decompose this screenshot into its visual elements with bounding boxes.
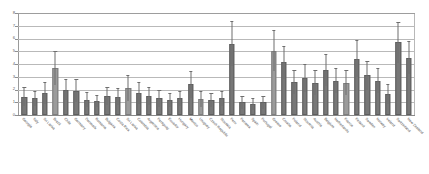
bar-slot bbox=[61, 13, 71, 115]
error-bar-cap bbox=[116, 88, 119, 89]
x-label-slot: Sri Lanka bbox=[123, 116, 133, 174]
y-tick-mark bbox=[15, 26, 18, 27]
bar-slot bbox=[144, 13, 154, 115]
error-bar-cap bbox=[397, 22, 400, 23]
error-bar bbox=[96, 95, 97, 108]
bar-slot bbox=[123, 13, 133, 115]
x-label-slot: Italy bbox=[29, 116, 39, 174]
error-bar-cap bbox=[366, 61, 369, 62]
error-bar-cap bbox=[407, 41, 410, 42]
error-bar bbox=[55, 51, 56, 85]
error-bar-cap bbox=[158, 90, 161, 91]
error-bar-cap bbox=[189, 71, 192, 72]
error-bar-cap bbox=[106, 87, 109, 88]
x-label-slot: Finland bbox=[352, 116, 362, 174]
bar-slot bbox=[279, 13, 289, 115]
error-bar-cap bbox=[293, 70, 296, 71]
error-bar-cap bbox=[230, 21, 233, 22]
x-label-slot: Panama bbox=[237, 116, 247, 174]
error-bar-cap bbox=[64, 79, 67, 80]
error-bar bbox=[315, 70, 316, 94]
y-tick-label: 0 bbox=[0, 113, 15, 117]
error-bar-cap bbox=[376, 68, 379, 69]
y-tick-label: 6 bbox=[0, 36, 15, 40]
error-bar bbox=[190, 71, 191, 98]
error-bar bbox=[159, 90, 160, 107]
x-label-slot: Poland bbox=[289, 116, 299, 174]
x-label-slot: Spain bbox=[248, 116, 258, 174]
y-tick-label: 5 bbox=[0, 49, 15, 53]
error-bar bbox=[86, 92, 87, 107]
error-bar bbox=[34, 91, 35, 106]
error-bar-cap bbox=[74, 79, 77, 80]
error-bar-cap bbox=[85, 92, 88, 93]
x-label-slot: Brazil bbox=[50, 116, 60, 174]
error-bar bbox=[107, 87, 108, 105]
error-bar bbox=[263, 96, 264, 109]
error-bar bbox=[377, 68, 378, 94]
error-bar-cap bbox=[303, 64, 306, 65]
bar-slot bbox=[40, 13, 50, 115]
y-tick-label: 3 bbox=[0, 75, 15, 79]
error-bar bbox=[294, 70, 295, 94]
bar-slot bbox=[268, 13, 278, 115]
x-label-slot: Denmark bbox=[81, 116, 91, 174]
error-bar-cap bbox=[23, 87, 26, 88]
bar-slot bbox=[71, 13, 81, 115]
error-bar bbox=[408, 41, 409, 74]
bar-slot bbox=[227, 13, 237, 115]
error-bar bbox=[356, 40, 357, 77]
error-bar-cap bbox=[334, 68, 337, 69]
error-bar bbox=[252, 98, 253, 109]
error-bar-cap bbox=[272, 30, 275, 31]
error-bar-cap bbox=[282, 46, 285, 47]
error-bar bbox=[304, 64, 305, 92]
error-bar bbox=[211, 93, 212, 107]
error-bar bbox=[169, 93, 170, 107]
error-bar bbox=[284, 46, 285, 79]
error-bar bbox=[148, 87, 149, 105]
bar-slot bbox=[102, 13, 112, 115]
y-tick-mark bbox=[15, 39, 18, 40]
error-bar-cap bbox=[33, 91, 36, 92]
y-tick-mark bbox=[15, 77, 18, 78]
bar-slot bbox=[92, 13, 102, 115]
error-bar-cap bbox=[251, 98, 254, 99]
error-bar-cap bbox=[168, 93, 171, 94]
y-tick-label: 2 bbox=[0, 87, 15, 91]
bar-slot bbox=[196, 13, 206, 115]
x-label-slot: Ireland bbox=[383, 116, 393, 174]
error-bar bbox=[242, 96, 243, 109]
x-label-slot: Austria bbox=[310, 116, 320, 174]
error-bar bbox=[138, 82, 139, 104]
x-tick-label: Italy bbox=[32, 117, 40, 125]
error-bar-cap bbox=[241, 96, 244, 97]
error-bar bbox=[346, 70, 347, 94]
x-label-slot: Slovenia bbox=[300, 116, 310, 174]
x-label-slot: Sweden bbox=[362, 116, 372, 174]
x-label-slot: Croatia bbox=[279, 116, 289, 174]
x-label-slot: Belgium bbox=[320, 116, 330, 174]
error-bar bbox=[388, 84, 389, 104]
bar-slot bbox=[289, 13, 299, 115]
bar-slot bbox=[113, 13, 123, 115]
y-tick-label: 4 bbox=[0, 62, 15, 66]
error-bar-cap bbox=[43, 82, 46, 83]
x-label-slot: Costa Rica bbox=[113, 116, 123, 174]
x-label-slot: Paraguay bbox=[154, 116, 164, 174]
bar-slot bbox=[165, 13, 175, 115]
error-bar bbox=[44, 82, 45, 104]
y-tick-mark bbox=[15, 102, 18, 103]
y-tick-mark bbox=[15, 115, 18, 116]
x-label-slot: Peru bbox=[227, 116, 237, 174]
error-bar-cap bbox=[345, 70, 348, 71]
x-tick-label: Peru bbox=[229, 117, 237, 125]
bar-slot bbox=[217, 13, 227, 115]
bar-slot bbox=[300, 13, 310, 115]
error-bar-cap bbox=[314, 70, 317, 71]
error-bar-cap bbox=[147, 87, 150, 88]
y-tick-label: 1 bbox=[0, 100, 15, 104]
y-tick-mark bbox=[15, 51, 18, 52]
error-bar bbox=[65, 79, 66, 101]
x-label-slot: Chile bbox=[61, 116, 71, 174]
